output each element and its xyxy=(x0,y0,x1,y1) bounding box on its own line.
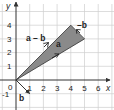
y-axis-label: y xyxy=(5,1,11,11)
x-tick-2: 2 xyxy=(41,84,46,93)
x-axis-label: x xyxy=(105,83,111,93)
y-tick-4: 4 xyxy=(7,21,12,30)
vector-subtraction-diagram: y x 0 1 2 3 4 5 6 4 3 2 1 -1 a – b a –b … xyxy=(0,0,114,110)
label-neg-b: –b xyxy=(77,20,87,30)
y-tick-1: 1 xyxy=(7,62,12,71)
x-tick-1: 1 xyxy=(28,84,33,93)
label-a: a xyxy=(56,39,61,49)
arrowhead-a-minus-b xyxy=(44,43,49,48)
x-tick-6: 6 xyxy=(96,84,101,93)
x-tick-3: 3 xyxy=(55,84,60,93)
y-tick-minus-1: -1 xyxy=(2,90,10,99)
label-a-minus-b: a – b xyxy=(26,33,45,43)
y-tick-2: 2 xyxy=(7,48,12,57)
label-b: b xyxy=(19,93,24,103)
x-tick-4: 4 xyxy=(69,84,74,93)
x-tick-5: 5 xyxy=(82,84,87,93)
y-tick-3: 3 xyxy=(7,35,12,44)
